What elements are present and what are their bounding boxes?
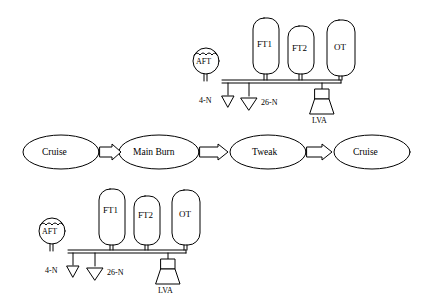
tank-ft2-bottom bbox=[134, 196, 160, 245]
tank-label-ft1-top: FT1 bbox=[257, 40, 272, 49]
thruster-right-label-bottom: 26-N bbox=[107, 269, 123, 277]
thruster-right-label-top: 26-N bbox=[261, 99, 277, 107]
lva-nozzle-top bbox=[310, 99, 334, 114]
thruster-right-nozzle-bottom bbox=[87, 268, 103, 280]
lva-nozzle-bottom bbox=[156, 269, 180, 284]
tank-label-ot-top: OT bbox=[334, 43, 346, 52]
engine-label-bottom: LVA bbox=[158, 287, 173, 295]
transition-arrow-2 bbox=[200, 144, 228, 160]
thruster-left-label-top: 4-N bbox=[199, 97, 211, 105]
state-label-cruise-1[interactable]: Cruise bbox=[42, 148, 67, 158]
aft-label-bottom: AFT bbox=[42, 228, 57, 236]
diagram-canvas: FT1 FT2 OT AFT 4-N 26-N LVA Cruise Main … bbox=[0, 0, 421, 304]
lva-valve-bottom bbox=[161, 259, 175, 269]
state-label-main-burn[interactable]: Main Burn bbox=[133, 148, 174, 158]
thruster-left-label-bottom: 4-N bbox=[45, 267, 57, 275]
aft-label-top: AFT bbox=[196, 58, 211, 66]
transition-arrow-1 bbox=[100, 144, 121, 160]
thruster-left-nozzle-top bbox=[222, 96, 234, 107]
tank-ft1-bottom bbox=[99, 189, 125, 245]
state-label-tweak[interactable]: Tweak bbox=[252, 148, 277, 158]
tank-label-ft2-top: FT2 bbox=[292, 44, 307, 53]
tank-label-ft1-bottom: FT1 bbox=[103, 206, 118, 215]
thruster-right-nozzle-top bbox=[241, 98, 257, 110]
engine-label-top: LVA bbox=[312, 117, 327, 125]
transition-arrow-3 bbox=[307, 144, 332, 160]
thruster-left-nozzle-bottom bbox=[67, 266, 79, 277]
state-label-cruise-2[interactable]: Cruise bbox=[353, 148, 378, 158]
lva-valve-top bbox=[315, 89, 329, 99]
tank-label-ft2-bottom: FT2 bbox=[138, 211, 153, 220]
tank-label-ot-bottom: OT bbox=[179, 210, 191, 219]
